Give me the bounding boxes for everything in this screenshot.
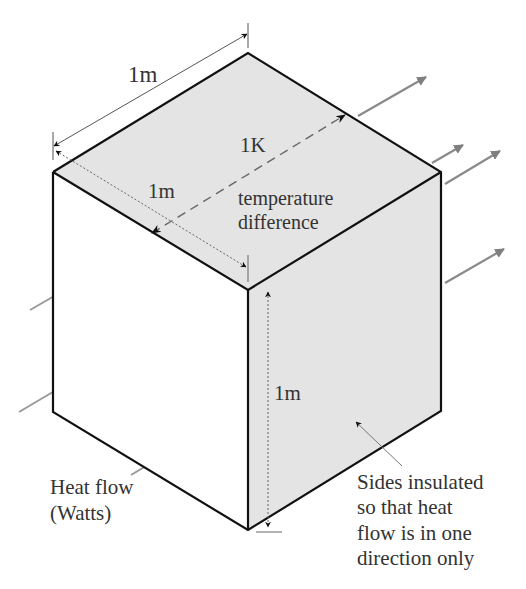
height-label: 1m — [274, 381, 301, 405]
temperature-value-label: 1K — [240, 133, 266, 157]
top-edge-label: 1m — [128, 62, 158, 87]
temperature-label-line2: difference — [238, 211, 319, 233]
insulated-label-line4: direction only — [357, 546, 475, 570]
heat-flow-label-line1: Heat flow — [50, 475, 134, 499]
temperature-label-line1: temperature — [238, 187, 334, 210]
cube-diagram: 1m 1m 1K temperature difference 1m Heat … — [0, 0, 526, 589]
heat-flow-label-line2: (Watts) — [50, 501, 111, 525]
insulated-label-line2: so that heat — [357, 495, 453, 519]
depth-label: 1m — [148, 179, 175, 203]
insulated-label-line3: flow is in one — [357, 521, 472, 545]
insulated-label-line1: Sides insulated — [357, 470, 484, 494]
